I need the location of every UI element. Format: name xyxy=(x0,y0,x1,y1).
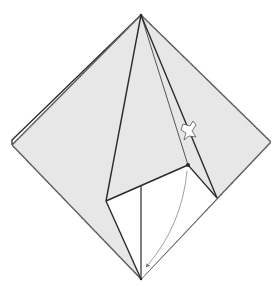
bottom-vertex-dot xyxy=(140,278,143,281)
origami-diagram: Square base (diamond) with one flap part… xyxy=(0,0,274,287)
diagram-canvas xyxy=(0,0,274,287)
top-vertex-dot xyxy=(140,14,143,17)
reference-dot xyxy=(186,163,190,167)
